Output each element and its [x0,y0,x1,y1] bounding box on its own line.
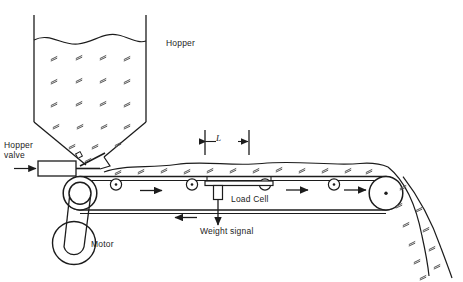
load-cell [214,186,223,200]
idler-roller [186,179,197,190]
idler-roller [110,179,121,190]
hopper [34,15,146,165]
weigh-platform [205,177,273,186]
load-cell-label: Load Cell [231,194,269,204]
head-pulley [369,176,403,210]
hopper-label: Hopper [166,38,195,48]
hopper-valve-label: Hopper valve [4,140,33,160]
belt-weigher-diagram [0,0,463,282]
motor-pulley [53,222,96,265]
material-surface [34,34,146,44]
motor-label: Motor [91,239,114,249]
idler-roller [328,179,339,190]
diagram-canvas: Hopper Hopper valve L Load Cell Weight s… [0,0,463,282]
span-dimension [205,130,249,155]
span-length-label: L [216,133,221,143]
material-on-belt [104,162,388,175]
weight-signal-label: Weight signal [200,226,253,236]
hopper-material-hatch [51,55,130,163]
belt-material-hatch [115,167,372,175]
